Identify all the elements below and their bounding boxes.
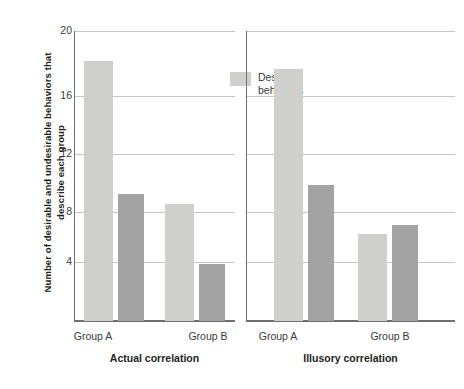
y-axis-line-right <box>246 31 247 322</box>
gridline-20-right <box>246 31 455 32</box>
y-tick-4: 4 <box>48 255 72 267</box>
x-tick-left-group-a: Group A <box>58 330 128 342</box>
y-axis-line-left <box>74 31 75 322</box>
bar-right-groupA-undesirable <box>308 185 334 321</box>
bar-left-groupB-desirable <box>165 204 194 321</box>
bar-chart-figure: Number of desirable and undesirable beha… <box>0 0 464 389</box>
bar-right-groupA-desirable <box>274 69 303 321</box>
x-tick-right-group-b: Group B <box>355 330 425 342</box>
y-tick-12: 12 <box>48 147 72 159</box>
bar-right-groupB-desirable <box>358 234 387 321</box>
x-tick-left-group-b: Group B <box>173 330 243 342</box>
y-tick-20: 20 <box>48 24 72 36</box>
bar-left-groupB-undesirable <box>199 264 225 322</box>
plot-area-left <box>74 31 235 322</box>
bar-left-groupA-desirable <box>84 61 113 321</box>
plot-area-right <box>246 31 455 322</box>
panel-actual-correlation: Desirable behaviors <box>74 31 235 322</box>
y-tick-8: 8 <box>48 205 72 217</box>
bar-right-groupB-undesirable <box>392 225 418 321</box>
y-tick-16: 16 <box>48 89 72 101</box>
panel-illusory-correlation: Undesirable behaviors <box>246 31 455 322</box>
x-tick-right-group-a: Group A <box>243 330 313 342</box>
panel-title-actual-correlation: Actual correlation <box>74 352 235 364</box>
bar-left-groupA-undesirable <box>118 194 144 321</box>
panel-title-illusory-correlation: Illusory correlation <box>246 352 455 364</box>
gridline-20 <box>74 31 235 32</box>
